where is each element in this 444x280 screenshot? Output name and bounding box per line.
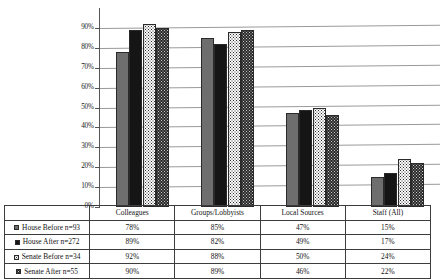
bar-group: [355, 8, 440, 207]
bar: [156, 28, 169, 207]
data-cell: 22%: [345, 264, 430, 279]
data-cell: 24%: [345, 249, 430, 264]
data-cell: 85%: [175, 220, 260, 235]
y-tick-label: 60%: [81, 84, 94, 91]
data-cell: 82%: [175, 235, 260, 250]
legend-label: House Before n=93: [22, 223, 80, 232]
legend-label: Senate After n=55: [24, 267, 78, 276]
category-header: Colleagues: [90, 206, 175, 221]
table-header-row: ColleaguesGroups/LobbyistsLocal SourcesS…: [5, 206, 431, 221]
bar: [286, 113, 299, 207]
legend-swatch-icon: [15, 240, 20, 245]
table-row: Senate After n=5590%89%46%22%: [5, 264, 431, 279]
y-tick-label: 50%: [81, 104, 94, 111]
bar: [214, 44, 227, 207]
bar-group: [185, 8, 270, 207]
data-cell: 88%: [175, 249, 260, 264]
legend-entry[interactable]: Senate After n=55: [5, 264, 90, 279]
chart-page: 90%80%70%60%50%40%30%20%10%0% Colleagues…: [0, 0, 444, 280]
y-tick-label: 10%: [81, 183, 94, 190]
bar: [129, 30, 142, 207]
data-cell: 49%: [260, 235, 345, 250]
data-table: ColleaguesGroups/LobbyistsLocal SourcesS…: [4, 205, 431, 279]
data-cell: 15%: [345, 220, 430, 235]
legend-label: House After n=272: [23, 237, 80, 246]
table-row: Senate Before n=3492%88%50%24%: [5, 249, 431, 264]
data-cell: 89%: [90, 235, 175, 250]
data-cell: 78%: [90, 220, 175, 235]
legend-swatch-icon: [14, 255, 19, 260]
bar: [116, 52, 129, 207]
data-cell: 46%: [260, 264, 345, 279]
legend-swatch-icon: [14, 225, 19, 230]
table-row: House Before n=9378%85%47%15%: [5, 220, 431, 235]
bars-layer: [100, 8, 440, 207]
category-header: Staff (All): [345, 206, 430, 221]
bar: [411, 163, 424, 207]
table-corner-blank: [5, 206, 90, 221]
bar: [241, 30, 254, 207]
category-header: Local Sources: [260, 206, 345, 221]
data-cell: 89%: [175, 264, 260, 279]
data-cell: 47%: [260, 220, 345, 235]
bar: [201, 38, 214, 207]
bar: [299, 110, 312, 208]
legend-entry[interactable]: House After n=272: [5, 235, 90, 250]
bar: [313, 108, 326, 208]
data-cell: 50%: [260, 249, 345, 264]
bar: [384, 173, 397, 207]
legend-swatch-icon: [16, 269, 21, 274]
y-tick-label: 90%: [81, 24, 94, 31]
data-table-legend: ColleaguesGroups/LobbyistsLocal SourcesS…: [4, 205, 431, 277]
bar-group: [100, 8, 185, 207]
bar: [143, 24, 156, 207]
bar-group: [270, 8, 355, 207]
chart-plot-area: 90%80%70%60%50%40%30%20%10%0%: [0, 0, 444, 208]
bar: [326, 115, 339, 207]
category-header: Groups/Lobbyists: [175, 206, 260, 221]
data-cell: 92%: [90, 249, 175, 264]
legend-entry[interactable]: Senate Before n=34: [5, 249, 90, 264]
bar: [371, 177, 384, 207]
y-tick-label: 40%: [81, 123, 94, 130]
data-cell: 90%: [90, 264, 175, 279]
y-tick-label: 70%: [81, 64, 94, 71]
table-row: House After n=27289%82%49%17%: [5, 235, 431, 250]
y-tick-label: 20%: [81, 163, 94, 170]
legend-entry[interactable]: House Before n=93: [5, 220, 90, 235]
bar: [398, 159, 411, 207]
bar: [228, 32, 241, 207]
legend-label: Senate Before n=34: [22, 252, 81, 261]
data-cell: 17%: [345, 235, 430, 250]
y-axis-tick-labels: 90%80%70%60%50%40%30%20%10%0%: [60, 0, 98, 208]
y-tick-label: 80%: [81, 44, 94, 51]
y-tick-label: 30%: [81, 143, 94, 150]
